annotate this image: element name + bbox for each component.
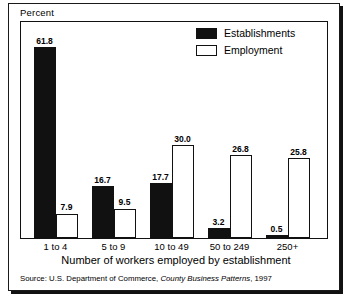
- bar-establishments[interactable]: [208, 228, 230, 238]
- figure-shadow-right: [340, 6, 343, 294]
- bar-establishments[interactable]: [150, 183, 172, 238]
- x-axis-tick-label: 250+: [277, 241, 298, 252]
- plot-area: 61.87.916.79.517.730.03.226.80.525.8: [22, 23, 327, 239]
- source-note: Source: U.S. Department of Commerce, Cou…: [20, 274, 272, 283]
- bar-wrapper: 17.7: [150, 183, 172, 238]
- bar-wrapper: 3.2: [208, 228, 230, 238]
- figure-shadow-bottom: [11, 291, 343, 294]
- bar-establishments[interactable]: [266, 235, 288, 238]
- source-publication: County Business Patterns: [160, 274, 250, 283]
- bar-wrapper: 26.8: [230, 155, 252, 238]
- bar-wrapper: 30.0: [172, 145, 194, 238]
- source-prefix: Source: U.S. Department of Commerce,: [20, 274, 160, 283]
- bar-value-label: 26.8: [232, 144, 249, 154]
- bar-value-label: 17.7: [152, 172, 169, 182]
- bar-group: 3.226.8: [208, 155, 252, 238]
- bar-group: 61.87.9: [34, 47, 78, 238]
- bar-value-label: 3.2: [213, 217, 225, 227]
- bar-value-label: 61.8: [36, 36, 53, 46]
- source-suffix: , 1997: [250, 274, 272, 283]
- bar-employment[interactable]: [230, 155, 252, 238]
- bar-value-label: 9.5: [119, 197, 131, 207]
- bar-value-label: 30.0: [174, 134, 191, 144]
- bar-establishments[interactable]: [92, 186, 114, 238]
- bar-value-label: 7.9: [61, 202, 73, 212]
- bar-value-label: 16.7: [94, 175, 111, 185]
- bar-employment[interactable]: [114, 209, 136, 238]
- bar-employment[interactable]: [288, 158, 310, 238]
- bar-group: 16.79.5: [92, 186, 136, 238]
- x-axis-tick-label: 1 to 4: [44, 241, 68, 252]
- bar-value-label: 0.5: [271, 224, 283, 234]
- bar-group: 0.525.8: [266, 158, 310, 238]
- x-axis-tick-label: 10 to 49: [154, 241, 188, 252]
- bar-wrapper: 7.9: [56, 214, 78, 238]
- bar-wrapper: 61.8: [34, 47, 56, 238]
- bar-wrapper: 16.7: [92, 186, 114, 238]
- x-axis-title: Number of workers employed by establishm…: [0, 254, 352, 266]
- bar-wrapper: 9.5: [114, 209, 136, 238]
- bar-employment[interactable]: [56, 214, 78, 238]
- bar-value-label: 25.8: [290, 147, 307, 157]
- x-axis-tick-label: 50 to 249: [210, 241, 250, 252]
- bar-wrapper: 0.5: [266, 235, 288, 238]
- bar-establishments[interactable]: [34, 47, 56, 238]
- bar-group: 17.730.0: [150, 145, 194, 238]
- y-axis-label: Percent: [20, 7, 54, 18]
- bar-employment[interactable]: [172, 145, 194, 238]
- bar-wrapper: 25.8: [288, 158, 310, 238]
- x-axis-tick-label: 5 to 9: [102, 241, 126, 252]
